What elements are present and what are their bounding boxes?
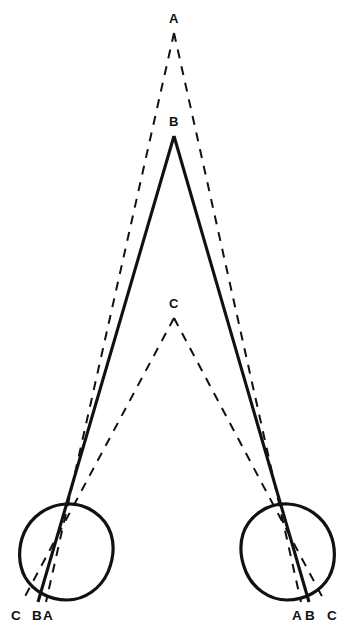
ray-a-to-left-eye (46, 33, 174, 602)
ray-b-to-left-eye (38, 136, 174, 602)
binocular-projection-figure: A B C C B A A B C (0, 0, 354, 632)
point-label-c: C (169, 297, 178, 310)
right-eye-image-label-b: B (305, 609, 315, 623)
ray-group-c (22, 318, 325, 602)
left-eye-image-label-c: C (11, 609, 21, 623)
left-eye-image-label-b: B (32, 609, 42, 623)
right-eye-outline (241, 504, 335, 600)
ray-group-b (38, 136, 309, 602)
point-label-a: A (169, 12, 178, 25)
right-eye-image-label-c: C (327, 609, 337, 623)
ray-a-to-right-eye (174, 33, 301, 602)
left-eye-image-label-a: A (43, 609, 53, 623)
right-eye-image-label-a: A (292, 609, 302, 623)
ray-c-to-left-eye (22, 318, 174, 602)
ray-c-to-right-eye (174, 318, 325, 602)
ray-b-to-right-eye (174, 136, 309, 602)
diagram-canvas (0, 0, 354, 632)
point-label-b: B (169, 115, 178, 128)
